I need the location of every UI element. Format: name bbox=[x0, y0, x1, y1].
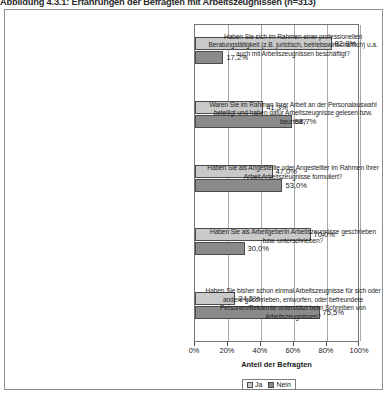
x-tick-label: 0% bbox=[189, 346, 200, 355]
category-label: Haben Sie als Angestellte oder Angestell… bbox=[204, 164, 382, 181]
x-tick-label: 80% bbox=[319, 346, 334, 355]
legend-label-ja: Ja bbox=[255, 381, 262, 388]
category-label: Haben Sie sich im Rahmen einer professio… bbox=[204, 33, 382, 59]
figure-caption: Abbildung 4.3.1: Erfahrungen der Befragt… bbox=[0, 0, 389, 8]
x-tick-label: 40% bbox=[253, 346, 268, 355]
chart-frame: 82,8%17,2%41,3%58,7%47,0%53,0%70,0%30,0%… bbox=[4, 9, 383, 390]
x-tick-label: 100% bbox=[350, 346, 369, 355]
category-label: Haben Sie als ArbeitgeberIn Arbeitszeugn… bbox=[204, 228, 382, 245]
legend-swatch-nein-icon bbox=[268, 382, 274, 388]
x-axis-title: Anteil der Befragten bbox=[194, 360, 359, 369]
legend-swatch-ja-icon bbox=[247, 382, 253, 388]
legend-item-ja[interactable]: Ja bbox=[247, 381, 262, 388]
category-label: Haben Sie bisher schon einmal Arbeitszeu… bbox=[204, 287, 382, 321]
chart-legend: Ja Nein bbox=[242, 379, 296, 390]
x-tick-label: 60% bbox=[286, 346, 301, 355]
x-tick-label: 20% bbox=[220, 346, 235, 355]
legend-item-nein[interactable]: Nein bbox=[268, 381, 290, 388]
legend-label-nein: Nein bbox=[276, 381, 290, 388]
category-label: Waren Sie im Rahmen Ihrer Arbeit an der … bbox=[204, 101, 382, 127]
x-axis-tick-labels: 0%20%40%60%80%100% bbox=[194, 346, 359, 358]
